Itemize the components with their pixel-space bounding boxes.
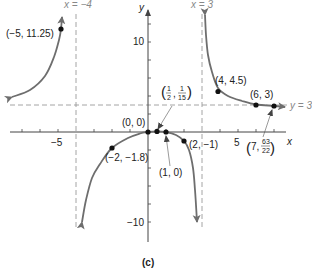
graph-canvas: y x x = −4 x = 3 y = 3 −5 5 10 −10 (−5, …: [0, 0, 312, 276]
point-two: [181, 138, 186, 143]
tick-label-10: 10: [133, 36, 145, 47]
svg-text:,: ,: [173, 88, 176, 99]
svg-text:1: 1: [180, 85, 184, 92]
point-label-seven: ( 7, 63 22 ): [246, 138, 275, 156]
tick-label-neg10: −10: [127, 217, 144, 228]
svg-text:): ): [270, 139, 275, 156]
point-four: [215, 89, 220, 94]
svg-text:22: 22: [262, 147, 270, 154]
svg-text:): ): [187, 83, 192, 100]
asymptote-label-x-3: x = 3: [190, 0, 213, 10]
point-label-half: ( 1 2 , 1 15 ): [161, 83, 192, 101]
svg-text:15: 15: [178, 94, 186, 101]
point-one: [163, 129, 168, 134]
point-label-origin: (0, 0): [122, 117, 145, 128]
svg-text:(: (: [161, 83, 166, 100]
tick-label-neg5: −5: [51, 137, 63, 148]
point-label-neg5: (−5, 11.25): [6, 28, 54, 39]
x-axis-label: x: [286, 136, 293, 147]
leader-seven: [263, 110, 272, 137]
svg-text:2: 2: [167, 94, 171, 101]
y-axis-label: y: [138, 2, 145, 13]
asymptote-label-y-3: y = 3: [289, 100, 312, 111]
point-six: [253, 102, 258, 107]
asymptote-label-x-neg4: x = −4: [63, 0, 92, 10]
point-label-four: (4, 4.5): [215, 75, 247, 86]
rational-function-graph: y x x = −4 x = 3 y = 3 −5 5 10 −10 (−5, …: [0, 0, 312, 276]
point-neg2: [109, 145, 114, 150]
svg-text:7,: 7,: [251, 141, 259, 152]
leader-one: [166, 136, 170, 166]
svg-text:63: 63: [262, 138, 270, 145]
point-neg5: [58, 26, 63, 31]
point-label-six: (6, 3): [250, 89, 273, 100]
point-origin: [145, 129, 150, 134]
figure-caption: (c): [142, 257, 154, 268]
point-half: [154, 129, 159, 134]
point-label-two: (2, −1): [189, 139, 218, 150]
tick-label-5: 5: [234, 137, 240, 148]
point-seven: [271, 103, 276, 108]
leader-half: [158, 106, 172, 129]
point-label-neg2: (−2, −1.8): [105, 152, 148, 163]
point-label-one: (1, 0): [159, 167, 182, 178]
svg-text:1: 1: [167, 85, 171, 92]
